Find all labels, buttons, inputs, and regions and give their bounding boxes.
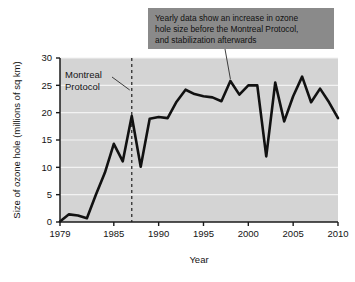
y-axis-tick-label: 25 (41, 80, 52, 91)
montreal-protocol-label-line2: Protocol (65, 81, 100, 92)
callout-text-line1: Yearly data show an increase in ozone (155, 13, 298, 23)
y-axis-tick-label: 30 (41, 52, 52, 63)
x-axis-tick-label: 2000 (238, 228, 259, 239)
y-axis-title: Size of ozone hole (millions of sq km) (11, 61, 22, 218)
montreal-protocol-label-line1: Montreal (65, 69, 102, 80)
y-axis-tick-label: 5 (47, 189, 52, 200)
y-axis-tick-label: 0 (47, 216, 52, 227)
x-axis-tick-label: 1990 (148, 228, 169, 239)
y-axis-tick-label: 15 (41, 134, 52, 145)
x-axis-tick-label: 1995 (193, 228, 214, 239)
chart-canvas: 051015202530 197919851990199520002005201… (0, 0, 355, 282)
x-axis-tick-labels: 1979198519901995200020052010 (49, 228, 348, 239)
callout-text-line3: and stabilization afterwards (155, 35, 257, 45)
x-axis-tick-label: 1985 (103, 228, 124, 239)
x-axis-tick-label: 1979 (49, 228, 70, 239)
y-axis-tick-labels: 051015202530 (41, 52, 52, 227)
x-axis-tick-label: 2010 (327, 228, 348, 239)
y-axis-tick-label: 10 (41, 162, 52, 173)
callout-text-line2: hole size before the Montreal Protocol, (155, 24, 298, 34)
y-axis-tick-label: 20 (41, 107, 52, 118)
ozone-hole-chart-figure: 051015202530 197919851990199520002005201… (0, 0, 355, 282)
x-axis-title: Year (189, 254, 208, 265)
x-axis-tick-label: 2005 (283, 228, 304, 239)
